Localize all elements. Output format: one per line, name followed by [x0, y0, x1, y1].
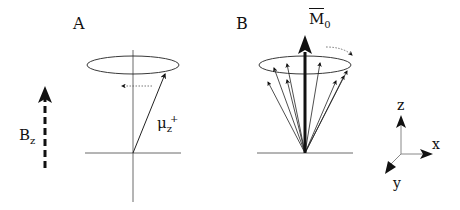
x-axis-label: x [432, 137, 440, 151]
field-subscript: z [30, 135, 35, 146]
field-label: Bz [19, 128, 35, 143]
z-axis-label: z [397, 98, 404, 112]
y-axis-arrow-icon [385, 161, 396, 174]
moment-subscript: z [167, 123, 172, 134]
magnetization-symbol: M [309, 8, 324, 28]
y-axis-label: y [393, 176, 401, 190]
panel-b [257, 35, 353, 153]
magnetization-arrow-head-icon [298, 35, 312, 54]
panel-b-label: B [236, 16, 248, 32]
moment-superscript: + [170, 113, 178, 124]
magnetization-label: M0 [309, 12, 331, 27]
magnetization-subscript: 0 [324, 19, 330, 30]
coordinate-axes [385, 115, 433, 174]
panel-a-label: A [73, 16, 85, 32]
precession-diagram [0, 0, 460, 210]
moment-label: μz+ [157, 116, 180, 131]
moment-symbol: μ [157, 114, 167, 132]
field-symbol: B [19, 126, 30, 144]
y-axis [390, 154, 401, 165]
spin-vectors [268, 63, 347, 153]
precession-direction-arrow [326, 47, 352, 55]
